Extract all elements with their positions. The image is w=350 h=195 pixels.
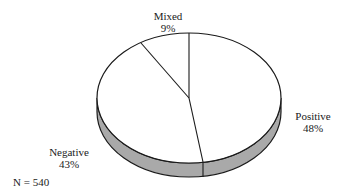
label-mixed: Mixed 9% [148, 10, 188, 34]
label-positive: Positive 48% [288, 110, 338, 134]
sample-size-annotation: N = 540 [13, 176, 49, 188]
label-negative: Negative 43% [44, 146, 94, 170]
label-mixed-value: 9% [148, 22, 188, 34]
label-positive-value: 48% [288, 122, 338, 134]
label-negative-name: Negative [44, 146, 94, 158]
label-negative-value: 43% [44, 158, 94, 170]
label-positive-name: Positive [288, 110, 338, 122]
label-mixed-name: Mixed [148, 10, 188, 22]
